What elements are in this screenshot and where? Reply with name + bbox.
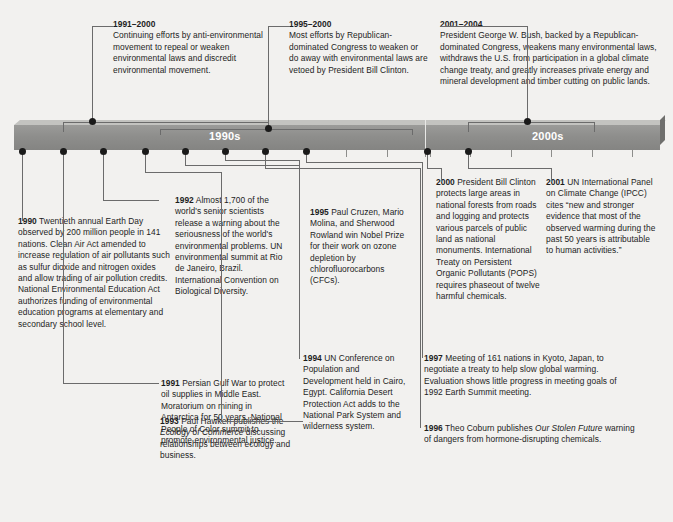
callout-1997: 1997 Meeting of 161 nations in Kyoto, Ja… <box>424 353 620 399</box>
callout-1990: 1990 Twentieth annual Earth Day observed… <box>18 216 170 330</box>
callout-1991-2000-body: Continuing efforts by anti-environmental… <box>113 30 263 74</box>
callout-1994-year: 1994 <box>303 353 322 363</box>
anchor-dot-1990 <box>19 148 26 155</box>
callout-2001-2004-body: President George W. Bush, backed by a Re… <box>440 30 657 86</box>
callout-2001-body: UN International Panel on Climate Change… <box>546 177 655 255</box>
leader-2001-2004-tip <box>440 26 528 27</box>
leader-2001-horizontal <box>468 168 551 169</box>
bracket-1995-2000-left-leg <box>160 129 161 135</box>
timeline-infographic: 1990s 2000s 1991–2000 Continuing efforts… <box>0 0 673 522</box>
callout-1991-year: 1991 <box>161 378 180 388</box>
leader-1996-vertical <box>420 168 421 428</box>
anchor-dot-1991 <box>60 148 67 155</box>
callout-1995-2000-body: Most efforts by Republican-dominated Con… <box>289 30 428 74</box>
bracket-1995-2000-horizontal <box>160 129 413 130</box>
callout-1997-year: 1997 <box>424 353 443 363</box>
leader-1995-horizontal-top <box>225 160 299 161</box>
leader-1994-horizontal-top <box>185 165 299 166</box>
callout-1995-2000: 1995–2000 Most efforts by Republican-dom… <box>289 19 429 76</box>
decade-label-1990s: 1990s <box>209 130 241 142</box>
anchor-dot-2000 <box>424 148 431 155</box>
callout-1992-body: Almost 1,700 of the world's senior scien… <box>175 195 282 296</box>
timeline-tick <box>387 150 388 157</box>
callout-1995: 1995 Paul Cruzen, Mario Molina, and Sher… <box>310 207 414 287</box>
leader-1995-2000-tip <box>268 26 290 27</box>
anchor-dot-1993 <box>142 148 149 155</box>
anchor-dot-2001 <box>465 148 472 155</box>
callout-2001-2004-year: 2001–2004 <box>440 19 482 29</box>
callout-1993-year: 1993 <box>160 416 179 426</box>
anchor-dot-1992 <box>100 148 107 155</box>
leader-1996-stub <box>265 155 266 168</box>
leader-1993-stub <box>145 155 146 173</box>
leader-1993-vertical <box>221 172 222 421</box>
bracket-1991-2000-left-leg <box>63 122 64 132</box>
timeline-tick <box>511 150 512 157</box>
leader-2001-vertical <box>551 168 552 182</box>
bracket-1995-2000-right-leg <box>412 129 413 135</box>
leader-2000-vertical <box>441 168 442 182</box>
callout-1990-year: 1990 <box>18 216 37 226</box>
anchor-dot-1991-2000 <box>89 118 96 125</box>
leader-2000-stub <box>427 155 428 168</box>
callout-1994: 1994 UN Conference on Population and Dev… <box>303 353 411 433</box>
anchor-dot-1994 <box>182 148 189 155</box>
leader-1991-horizontal <box>63 383 159 384</box>
callout-1995-2000-year: 1995–2000 <box>289 19 331 29</box>
decade-divider <box>425 120 426 150</box>
anchor-dot-1996 <box>262 148 269 155</box>
callout-1994-body: UN Conference on Population and Developm… <box>303 353 405 431</box>
leader-2000-horizontal <box>427 168 441 169</box>
callout-1997-body: Meeting of 161 nations in Kyoto, Japan, … <box>424 353 617 397</box>
leader-2001-2004 <box>527 26 528 124</box>
anchor-dot-1995-2000 <box>265 125 272 132</box>
leader-1990 <box>22 155 23 221</box>
callout-1992-year: 1992 <box>175 195 194 205</box>
callout-1996-body-part1: Theo Coburn publishes <box>445 423 535 433</box>
leader-1991-vertical <box>63 155 64 383</box>
callout-2000-year: 2000 <box>436 177 455 187</box>
callout-1995-body: Paul Cruzen, Mario Molina, and Sherwood … <box>310 207 404 285</box>
callout-1995-year: 1995 <box>310 207 329 217</box>
leader-1997-horizontal <box>306 162 422 163</box>
anchor-dot-2001-2004 <box>524 118 531 125</box>
leader-2001-stub <box>468 155 469 168</box>
anchor-dot-1995 <box>222 148 229 155</box>
leader-1995-stub <box>225 155 226 161</box>
timeline-tick <box>551 150 552 157</box>
bracket-2001-2004-right-leg <box>594 122 595 132</box>
timeline-tick <box>592 150 593 157</box>
decade-label-2000s: 2000s <box>532 130 564 142</box>
anchor-dot-1997 <box>303 148 310 155</box>
leader-1992-horizontal <box>103 200 159 201</box>
callout-1992: 1992 Almost 1,700 of the world's senior … <box>175 195 285 298</box>
callout-2001-year: 2001 <box>546 177 565 187</box>
timeline-tick <box>346 150 347 157</box>
callout-2000: 2000 President Bill Clinton protects lar… <box>436 177 540 302</box>
callout-1991-2000: 1991–2000 Continuing efforts by anti-env… <box>113 19 273 76</box>
timeline-bar-right-face <box>660 115 665 145</box>
callout-1996-title: Our Stolen Future <box>535 423 602 433</box>
leader-1994-stub <box>185 155 186 166</box>
leader-1993-horizontal-top <box>145 172 221 173</box>
timeline-tick <box>632 150 633 157</box>
callout-2000-body: President Bill Clinton protects large ar… <box>436 177 540 301</box>
leader-1993-horizontal-bottom <box>221 421 303 422</box>
leader-1991-2000 <box>92 26 93 124</box>
callout-2001-2004: 2001–2004 President George W. Bush, back… <box>440 19 666 87</box>
callout-1996: 1996 Theo Coburn publishes Our Stolen Fu… <box>424 423 644 446</box>
bracket-2001-2004-left-leg <box>468 122 469 132</box>
leader-1992-vertical <box>103 155 104 200</box>
callout-2001: 2001 UN International Panel on Climate C… <box>546 177 658 257</box>
leader-1997-stub <box>306 155 307 162</box>
leader-1995-2000 <box>268 26 269 131</box>
callout-1993: 1993 Paul Hawken publishes the Ecology o… <box>160 416 292 462</box>
callout-1990-body: Twentieth annual Earth Day observed by 2… <box>18 216 170 329</box>
leader-1996-horizontal <box>265 168 420 169</box>
leader-1997-vertical <box>422 162 423 358</box>
callout-1993-title: Ecology of Commerce <box>160 427 243 437</box>
callout-1991-2000-year: 1991–2000 <box>113 19 155 29</box>
bracket-2001-2004-horizontal <box>468 122 595 123</box>
callout-1996-year: 1996 <box>424 423 443 433</box>
leader-1991-2000-tip <box>92 26 114 27</box>
